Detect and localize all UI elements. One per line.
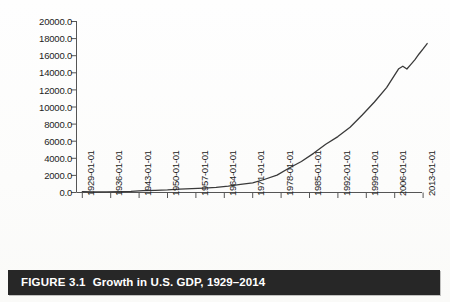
figure-caption-text: FIGURE 3.1Growth in U.S. GDP, 1929–2014 — [8, 277, 265, 289]
x-tick-label: 1992-01-01 — [342, 150, 352, 196]
figure-number-label: FIGURE 3.1 — [21, 276, 86, 288]
figure-title-label: Growth in U.S. GDP, 1929–2014 — [93, 276, 266, 288]
x-tick-label: 1936-01-01 — [114, 150, 124, 196]
x-tick-label: 2006-01-01 — [398, 150, 408, 196]
x-tick-label: 1943-01-01 — [143, 150, 153, 196]
x-tick-label: 2013-01-01 — [427, 150, 437, 196]
x-tick-label: 1929-01-01 — [86, 150, 96, 196]
figure-plot-area: 20000.0 18000.0 16000.0 14000.0 12000.0 … — [0, 0, 450, 266]
x-tick-label: 1950-01-01 — [171, 150, 181, 196]
x-tick-label: 1999-01-01 — [370, 150, 380, 196]
figure-caption-bar: FIGURE 3.1Growth in U.S. GDP, 1929–2014 — [8, 270, 440, 295]
x-axis-tick-labels: 1929-01-01 1936-01-01 1943-01-01 1950-01… — [0, 0, 450, 266]
x-tick-label: 1985-01-01 — [313, 150, 323, 196]
x-tick-label: 1971-01-01 — [256, 150, 266, 196]
x-tick-label: 1978-01-01 — [285, 150, 295, 196]
x-tick-label: 1957-01-01 — [200, 150, 210, 196]
x-tick-label: 1964-01-01 — [228, 150, 238, 196]
